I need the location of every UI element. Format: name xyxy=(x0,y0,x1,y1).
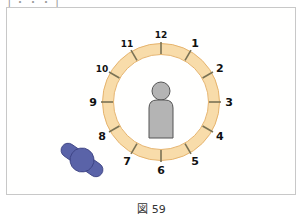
clock-diagram: 121234567891011 xyxy=(0,0,303,216)
clock-number-10: 10 xyxy=(96,64,109,74)
clock-number-6: 6 xyxy=(157,164,165,177)
clock-number-2: 2 xyxy=(216,62,224,75)
figure-caption: 図 59 xyxy=(0,200,303,216)
clock-number-4: 4 xyxy=(216,130,224,143)
blue-person-topdown xyxy=(55,136,108,183)
person-body xyxy=(149,100,173,138)
person-figure xyxy=(149,82,173,138)
clock-number-3: 3 xyxy=(225,96,233,109)
clock-number-7: 7 xyxy=(123,155,131,168)
clock-number-11: 11 xyxy=(121,39,134,49)
clock-number-12: 12 xyxy=(155,30,168,40)
clock-number-8: 8 xyxy=(98,130,106,143)
person-head xyxy=(152,82,170,100)
clock-number-1: 1 xyxy=(191,37,199,50)
clock-number-5: 5 xyxy=(191,155,199,168)
clock-number-9: 9 xyxy=(89,96,97,109)
